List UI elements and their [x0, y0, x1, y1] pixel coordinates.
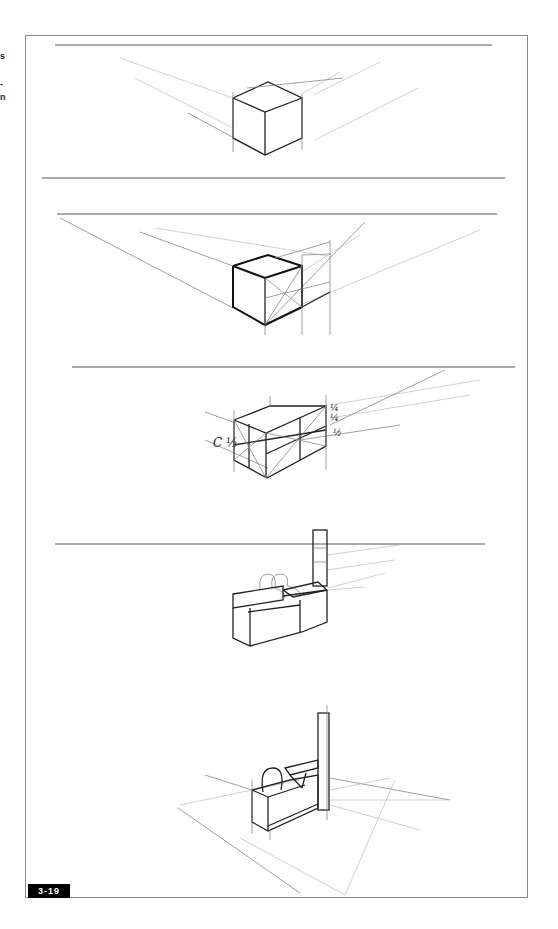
- dimension-label: ½: [333, 428, 342, 438]
- step-4-counter: [55, 530, 485, 646]
- figure-number-badge: 3-19: [28, 884, 70, 898]
- step-5-finished-counter: [178, 705, 450, 895]
- step-2-cube-diagonals: [57, 214, 497, 335]
- dimension-label: ¼: [330, 413, 339, 423]
- perspective-sketch-figure: ¼ ¼ ½ C ½: [0, 0, 558, 929]
- step-3-extended-box: ¼ ¼ ½ C ½: [72, 367, 515, 478]
- step-1-cube: [42, 45, 505, 178]
- dimension-label: C ½: [213, 436, 238, 450]
- dimension-label: ¼: [330, 403, 339, 413]
